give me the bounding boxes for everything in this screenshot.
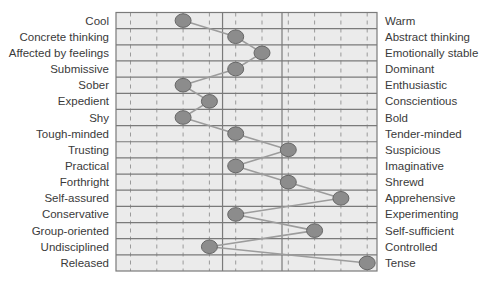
left-trait-label: Undisciplined — [41, 241, 109, 253]
left-trait-label: Tough-minded — [36, 128, 109, 140]
left-trait-label: Practical — [65, 160, 109, 172]
marker-expedient — [201, 95, 217, 109]
marker-submissive — [228, 62, 244, 76]
left-trait-label: Expedient — [58, 95, 110, 107]
right-trait-label: Self-sufficient — [385, 225, 455, 237]
grid — [116, 13, 377, 272]
marker-tough-minded — [228, 127, 244, 141]
marker-trusting — [280, 143, 296, 157]
left-trait-label: Self-assured — [44, 192, 109, 204]
marker-self-assured — [333, 191, 349, 205]
right-trait-label: Bold — [385, 112, 408, 124]
left-trait-label: Trusting — [68, 144, 109, 156]
marker-undisciplined — [201, 240, 217, 254]
right-trait-label: Controlled — [385, 241, 437, 253]
right-trait-label: Imaginative — [385, 160, 444, 172]
left-trait-label: Sober — [78, 79, 109, 91]
right-trait-label: Emotionally stable — [385, 47, 478, 59]
right-trait-label: Suspicious — [385, 144, 441, 156]
left-trait-label: Cool — [85, 15, 109, 27]
left-trait-label: Submissive — [50, 63, 109, 75]
left-trait-label: Affected by feelings — [9, 47, 109, 59]
marker-conservative — [228, 208, 244, 222]
right-trait-label: Experimenting — [385, 208, 459, 220]
right-trait-label: Enthusiastic — [385, 79, 447, 91]
left-trait-label: Shy — [89, 112, 109, 124]
right-trait-label: Apprehensive — [385, 192, 455, 204]
marker-group-oriented — [307, 224, 323, 238]
right-trait-label: Warm — [385, 15, 415, 27]
right-trait-label: Shrewd — [385, 176, 424, 188]
marker-sober — [175, 78, 191, 92]
right-trait-label: Dominant — [385, 63, 435, 75]
right-trait-label: Conscientious — [385, 95, 457, 107]
left-trait-label: Concrete thinking — [20, 31, 110, 43]
right-trait-label: Tender-minded — [385, 128, 462, 140]
left-trait-label: Released — [60, 257, 109, 269]
marker-concrete-thinking — [228, 30, 244, 44]
marker-practical — [228, 159, 244, 173]
left-trait-label: Conservative — [42, 208, 109, 220]
marker-shy — [175, 111, 191, 125]
right-trait-label: Abstract thinking — [385, 31, 470, 43]
marker-forthright — [280, 175, 296, 189]
right-trait-label: Tense — [385, 257, 416, 269]
left-trait-label: Group-oriented — [32, 225, 109, 237]
personality-profile-chart: CoolWarmConcrete thinkingAbstract thinki… — [0, 0, 496, 289]
marker-affected-by-feelings — [254, 46, 270, 60]
marker-released — [359, 256, 375, 270]
marker-cool — [175, 14, 191, 28]
left-trait-label: Forthright — [60, 176, 110, 188]
